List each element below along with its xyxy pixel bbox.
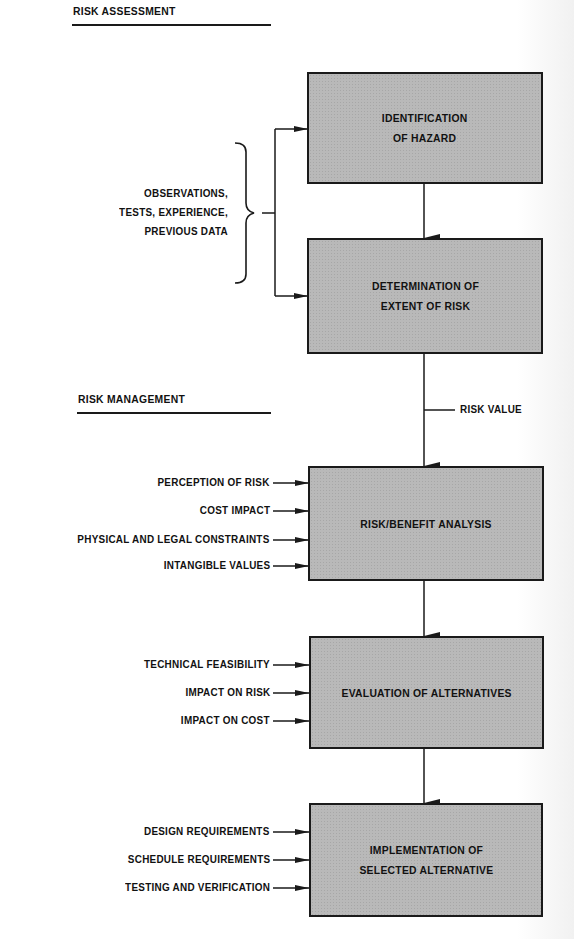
box-label: IMPLEMENTATION OF SELECTED ALTERNATIVE xyxy=(359,840,493,880)
box-risk-benefit-analysis: RISK/BENEFIT ANALYSIS xyxy=(308,466,544,581)
input-design-requirements: DESIGN REQUIREMENTS xyxy=(144,825,270,837)
curly-brace-icon xyxy=(235,143,254,283)
assessment-inputs-label: OBSERVATIONS, TESTS, EXPERIENCE, PREVIOU… xyxy=(119,184,228,241)
risk-value-label: RISK VALUE xyxy=(460,403,522,415)
box-label: EVALUATION OF ALTERNATIVES xyxy=(341,683,511,703)
box-determination-of-extent-of-risk: DETERMINATION OF EXTENT OF RISK xyxy=(307,238,543,354)
input-physical-and-legal-constraints: PHYSICAL AND LEGAL CONSTRAINTS xyxy=(78,533,270,545)
input-impact-on-cost: IMPACT ON COST xyxy=(181,714,270,726)
box-implementation-of-selected-alternative: IMPLEMENTATION OF SELECTED ALTERNATIVE xyxy=(309,803,543,917)
input-technical-feasibility: TECHNICAL FEASIBILITY xyxy=(144,658,270,670)
input-schedule-requirements: SCHEDULE REQUIREMENTS xyxy=(127,853,270,865)
box-label: DETERMINATION OF EXTENT OF RISK xyxy=(371,276,478,316)
box-label: IDENTIFICATION OF HAZARD xyxy=(382,108,468,148)
box-identification-of-hazard: IDENTIFICATION OF HAZARD xyxy=(307,72,543,184)
box-label: RISK/BENEFIT ANALYSIS xyxy=(360,514,491,534)
input-perception-of-risk: PERCEPTION OF RISK xyxy=(158,476,270,488)
input-testing-and-verification: TESTING AND VERIFICATION xyxy=(125,881,270,893)
input-cost-impact: COST IMPACT xyxy=(200,504,270,516)
box-evaluation-of-alternatives: EVALUATION OF ALTERNATIVES xyxy=(309,636,544,749)
input-impact-on-risk: IMPACT ON RISK xyxy=(185,686,270,698)
input-intangible-values: INTANGIBLE VALUES xyxy=(163,559,270,571)
